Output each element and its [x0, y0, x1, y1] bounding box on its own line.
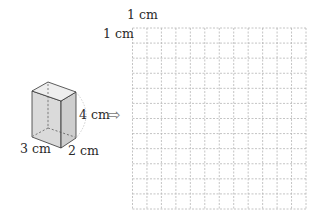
width-label: 2 cm	[68, 145, 99, 158]
grid-cell-width-label: 1 cm	[127, 9, 158, 22]
height-label: 4 cm	[79, 109, 110, 122]
rectangular-prism	[32, 82, 76, 148]
grid-paper	[133, 28, 307, 209]
side-face	[61, 92, 76, 148]
grid-cell-height-label: 1 cm	[103, 28, 134, 41]
diagram-canvas	[0, 0, 326, 221]
length-label: 3 cm	[20, 143, 51, 156]
arrow-icon: ⇨	[108, 108, 121, 123]
